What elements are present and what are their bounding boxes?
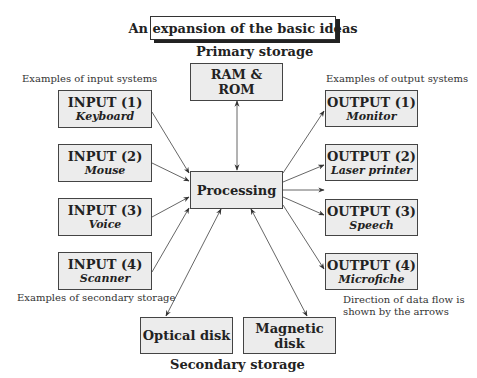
input-box-2: INPUT (2) Mouse bbox=[58, 144, 152, 182]
optical-disk-label: Optical disk bbox=[143, 328, 231, 343]
input-title: INPUT (1) bbox=[68, 95, 143, 110]
input-box-4: INPUT (4) Scanner bbox=[58, 252, 152, 290]
input-systems-caption: Examples of input systems bbox=[22, 73, 157, 84]
data-flow-note-line-2: shown by the arrows bbox=[343, 306, 465, 318]
arrow-magnetic-disk bbox=[251, 209, 307, 316]
output-box-2: OUTPUT (2) Laser printer bbox=[325, 144, 418, 181]
processing-label: Processing bbox=[197, 183, 277, 198]
input-box-3: INPUT (3) Voice bbox=[58, 198, 152, 236]
ram-rom-label: RAM & ROM bbox=[191, 67, 282, 97]
input-title: INPUT (2) bbox=[68, 149, 143, 164]
output-title: OUTPUT (4) bbox=[327, 258, 416, 273]
output-box-3: OUTPUT (3) Speech bbox=[325, 199, 418, 236]
arrow-input-1 bbox=[152, 112, 189, 173]
arrow-output-2 bbox=[283, 165, 324, 182]
secondary-storage-heading: Secondary storage bbox=[170, 357, 305, 372]
magnetic-disk-label: Magnetic disk bbox=[244, 321, 335, 351]
diagram-title: An expansion of the basic ideas bbox=[150, 16, 336, 40]
input-subtitle: Keyboard bbox=[76, 110, 134, 123]
arrow-input-2 bbox=[152, 163, 189, 181]
output-box-4: OUTPUT (4) Microfiche bbox=[325, 253, 418, 290]
arrow-output-3 bbox=[283, 197, 324, 215]
input-subtitle: Scanner bbox=[80, 272, 131, 285]
input-box-1: INPUT (1) Keyboard bbox=[58, 90, 152, 128]
output-title: OUTPUT (2) bbox=[327, 149, 416, 164]
primary-storage-heading: Primary storage bbox=[196, 44, 313, 59]
input-title: INPUT (3) bbox=[68, 203, 143, 218]
output-title: OUTPUT (3) bbox=[327, 204, 416, 219]
output-systems-caption: Examples of output systems bbox=[326, 73, 468, 84]
arrow-input-3 bbox=[152, 197, 189, 217]
output-subtitle: Monitor bbox=[347, 110, 397, 123]
arrow-input-4 bbox=[152, 208, 189, 272]
optical-disk-box: Optical disk bbox=[140, 317, 233, 354]
output-subtitle: Speech bbox=[349, 219, 393, 232]
arrow-output-1 bbox=[283, 111, 324, 173]
input-title: INPUT (4) bbox=[68, 257, 143, 272]
output-subtitle: Laser printer bbox=[331, 164, 412, 177]
arrow-output-4 bbox=[283, 205, 324, 269]
magnetic-disk-box: Magnetic disk bbox=[243, 317, 336, 354]
input-subtitle: Mouse bbox=[85, 164, 126, 177]
output-box-1: OUTPUT (1) Monitor bbox=[325, 90, 418, 127]
secondary-storage-caption: Examples of secondary storage bbox=[17, 292, 175, 303]
data-flow-note-line-1: Direction of data flow is bbox=[343, 294, 465, 306]
data-flow-note: Direction of data flow is shown by the a… bbox=[343, 294, 465, 318]
output-subtitle: Microfiche bbox=[339, 273, 405, 286]
output-title: OUTPUT (1) bbox=[327, 95, 416, 110]
input-subtitle: Voice bbox=[89, 218, 122, 231]
ram-rom-box: RAM & ROM bbox=[190, 63, 283, 101]
processing-box: Processing bbox=[190, 171, 283, 209]
